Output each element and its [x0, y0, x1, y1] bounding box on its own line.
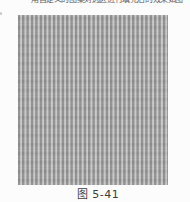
- stripe-pattern-image: [18, 15, 168, 185]
- clipped-text: 用自定义的图案对选区进行填充后的效果如图—: [31, 0, 188, 5]
- figure-caption: 图 5-41: [18, 188, 178, 201]
- scan-artifact-speck: [0, 12, 2, 15]
- clipped-text-line: 用自定义的图案对选区进行填充后的效果如图—: [31, 0, 188, 6]
